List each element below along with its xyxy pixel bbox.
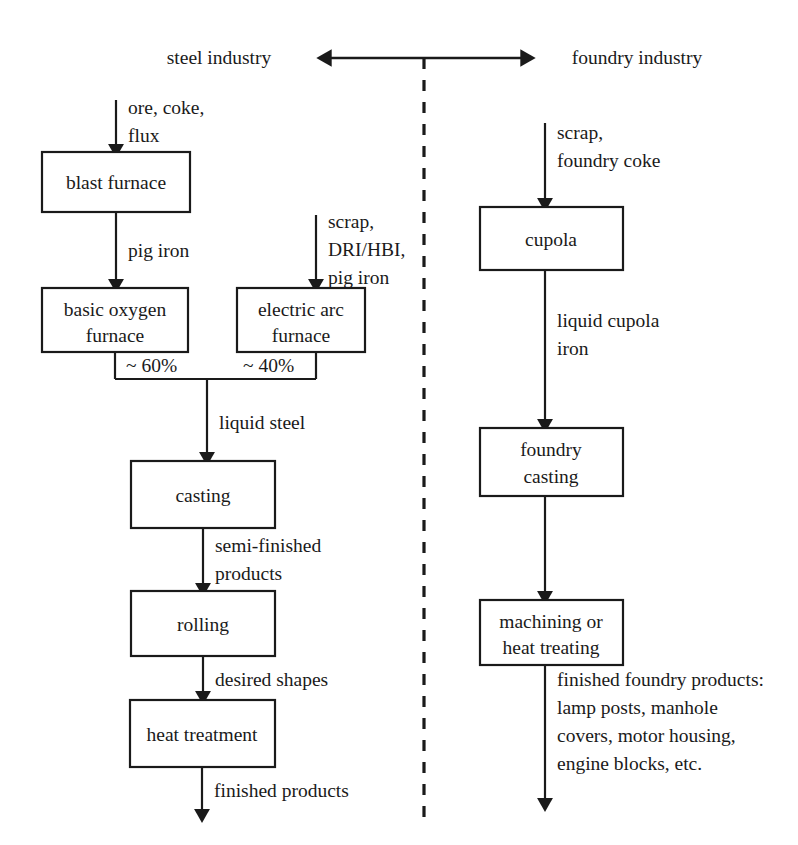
- finished-foundry-products-label-line1: finished foundry products:: [557, 669, 764, 690]
- foundry-input-label-line1: scrap,: [557, 122, 603, 143]
- foundry-industry-header: foundry industry: [572, 47, 703, 68]
- eaf-input-label-line1: scrap,: [328, 211, 374, 232]
- process-flow-diagram: steel industry foundry industry ore, cok…: [0, 0, 798, 845]
- foundry-casting-label-line1: foundry: [520, 439, 582, 460]
- machining-label-line1: machining or: [499, 611, 603, 632]
- semi-finished-products-label-line2: products: [215, 563, 282, 584]
- foundry-input-label-line2: foundry coke: [557, 150, 660, 171]
- flowchart-canvas: steel industry foundry industry ore, cok…: [0, 0, 798, 845]
- pig-iron-label: pig iron: [128, 240, 189, 261]
- semi-finished-products-label-line1: semi-finished: [215, 535, 321, 556]
- electric-arc-furnace-label-line1: electric arc: [258, 299, 344, 320]
- blast-furnace-label: blast furnace: [66, 172, 166, 193]
- finished-foundry-products-label-line3: covers, motor housing,: [557, 725, 736, 746]
- ore-coke-flux-label-line1: ore, coke,: [128, 97, 204, 118]
- steel-industry-header: steel industry: [167, 47, 272, 68]
- eaf-input-label-line3: pig iron: [328, 267, 389, 288]
- finished-foundry-products-label-line2: lamp posts, manhole: [557, 697, 718, 718]
- rolling-label: rolling: [177, 614, 229, 635]
- bof-share-label: ~ 60%: [126, 355, 177, 376]
- basic-oxygen-furnace-label-line1: basic oxygen: [64, 299, 167, 320]
- liquid-steel-label: liquid steel: [219, 412, 306, 433]
- eaf-input-label-line2: DRI/HBI,: [328, 239, 405, 260]
- heat-treatment-label: heat treatment: [147, 724, 259, 745]
- finished-products-label: finished products: [214, 780, 349, 801]
- cupola-label: cupola: [525, 229, 577, 250]
- machining-label-line2: heat treating: [503, 637, 600, 658]
- casting-label: casting: [175, 485, 230, 506]
- electric-arc-furnace-label-line2: furnace: [272, 325, 330, 346]
- desired-shapes-label: desired shapes: [215, 669, 328, 690]
- basic-oxygen-furnace-label-line2: furnace: [86, 325, 144, 346]
- liquid-cupola-iron-label-line1: liquid cupola: [557, 310, 660, 331]
- eaf-share-label: ~ 40%: [243, 355, 294, 376]
- liquid-cupola-iron-label-line2: iron: [557, 338, 589, 359]
- ore-coke-flux-label-line2: flux: [128, 125, 160, 146]
- foundry-casting-label-line2: casting: [523, 466, 578, 487]
- finished-foundry-products-label-line4: engine blocks, etc.: [557, 753, 702, 774]
